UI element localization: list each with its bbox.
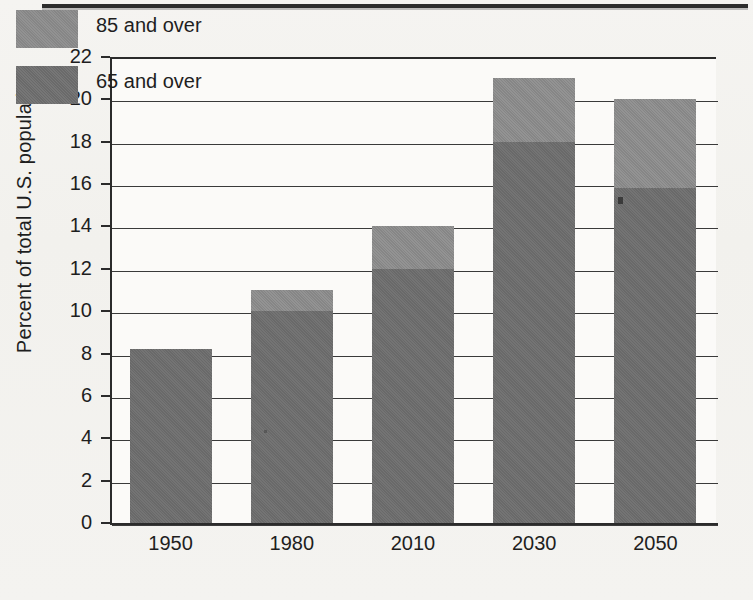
bar-segment-65-and-over — [130, 349, 212, 523]
bar-segment-85-and-over — [493, 78, 575, 142]
y-axis-tick — [101, 395, 110, 397]
scan-speck — [618, 197, 623, 204]
y-axis-tick — [101, 98, 110, 100]
figure-page: Percent of total U.S. population 0246810… — [0, 0, 753, 600]
y-axis-tick — [101, 480, 110, 482]
y-axis-tick — [101, 437, 110, 439]
x-axis-tick-label: 1980 — [222, 532, 362, 555]
y-axis-tick — [101, 183, 110, 185]
bar-2010 — [372, 57, 454, 523]
y-axis-tick-label: 14 — [52, 215, 92, 235]
y-axis-tick-label: 2 — [52, 470, 92, 490]
bar-segment-65-and-over — [251, 311, 333, 523]
y-axis-tick-label: 16 — [52, 173, 92, 193]
x-axis-tick-label: 2030 — [464, 532, 604, 555]
y-axis-tick-label: 10 — [52, 300, 92, 320]
bar-segment-65-and-over — [372, 269, 454, 523]
y-axis-tick — [101, 225, 110, 227]
stacked-bar-chart: Percent of total U.S. population 0246810… — [0, 0, 753, 600]
y-axis-tick-label: 8 — [52, 343, 92, 363]
y-axis-tick-label: 22 — [52, 46, 92, 66]
gridline — [112, 525, 718, 526]
legend-swatch — [16, 66, 78, 104]
y-axis-tick-label: 12 — [52, 258, 92, 278]
x-axis-tick-label: 2050 — [585, 532, 725, 555]
bar-segment-65-and-over — [493, 142, 575, 523]
bar-segment-85-and-over — [614, 99, 696, 188]
y-axis-tick-label: 6 — [52, 385, 92, 405]
y-axis-tick — [101, 56, 110, 58]
bar-1950 — [130, 57, 212, 523]
y-axis-tick — [101, 310, 110, 312]
bar-segment-85-and-over — [372, 226, 454, 268]
x-axis-tick-label: 2010 — [343, 532, 483, 555]
x-axis-tick-label: 1950 — [101, 532, 241, 555]
legend-label: 85 and over — [96, 14, 202, 37]
y-axis-tick — [101, 353, 110, 355]
scan-speck — [264, 430, 267, 433]
bar-segment-85-and-over — [251, 290, 333, 311]
legend-label: 65 and over — [96, 70, 202, 93]
x-axis-line — [110, 523, 718, 525]
bar-1980 — [251, 57, 333, 523]
y-axis-tick-label: 0 — [52, 512, 92, 532]
y-axis-tick — [101, 268, 110, 270]
bar-2030 — [493, 57, 575, 523]
y-axis-tick-label: 18 — [52, 131, 92, 151]
y-axis-tick — [101, 141, 110, 143]
y-axis-tick — [101, 522, 110, 524]
legend-swatch — [16, 10, 78, 48]
y-axis-tick-label: 4 — [52, 427, 92, 447]
bar-segment-65-and-over — [614, 188, 696, 523]
bar-2050 — [614, 57, 696, 523]
